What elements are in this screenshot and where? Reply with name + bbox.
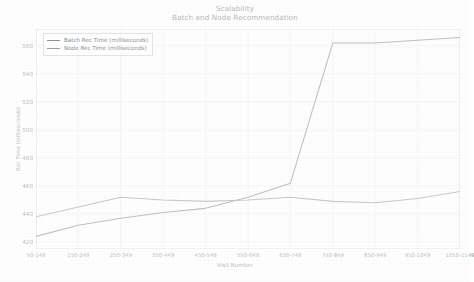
legend-item-node: Node Rec Time (milliseconds)	[47, 44, 148, 52]
y-tick-560: 560	[9, 43, 33, 49]
x-tick-250-349: 250-349	[110, 252, 132, 258]
x-tick-350-449: 350-449	[152, 252, 174, 258]
x-tick-650-749: 650-749	[279, 252, 301, 258]
series-line-1	[36, 192, 460, 217]
series-lines	[36, 29, 460, 249]
x-tick-1050-1149: 1050-1149	[446, 252, 474, 258]
y-tick-440: 440	[9, 211, 33, 217]
chart-subtitle: Batch and Node Recommendation	[0, 13, 470, 22]
y-tick-460: 460	[9, 183, 33, 189]
legend-item-batch: Batch Rec Time (milliseconds)	[47, 36, 148, 44]
y-tick-420: 420	[9, 239, 33, 245]
y-tick-540: 540	[9, 71, 33, 77]
x-tick-50-149: 50-149	[27, 252, 46, 258]
title-block: Scalability Batch and Node Recommendatio…	[0, 4, 470, 22]
y-tick-480: 480	[9, 155, 33, 161]
x-axis-title: Visit Number	[0, 262, 470, 268]
plot-area	[36, 29, 460, 249]
legend-swatch-node	[47, 48, 60, 49]
x-tick-150-249: 150-249	[67, 252, 89, 258]
x-axis-tick-labels: 50-149150-249250-349350-449450-549550-64…	[36, 249, 460, 263]
x-tick-550-649: 550-649	[237, 252, 259, 258]
x-tick-450-549: 450-549	[195, 252, 217, 258]
x-tick-950-1049: 950-1049	[405, 252, 431, 258]
chart-title: Scalability	[0, 4, 470, 13]
legend-label-node: Node Rec Time (milliseconds)	[64, 45, 147, 51]
legend-swatch-batch	[47, 40, 60, 41]
y-tick-500: 500	[9, 127, 33, 133]
y-axis-tick-labels: 420440460480500520540560	[6, 29, 33, 249]
series-line-0	[36, 37, 460, 236]
chart-legend: Batch Rec Time (milliseconds) Node Rec T…	[43, 33, 153, 56]
legend-label-batch: Batch Rec Time (milliseconds)	[64, 37, 148, 43]
x-tick-850-949: 850-949	[364, 252, 386, 258]
x-tick-750-849: 750-849	[322, 252, 344, 258]
y-tick-520: 520	[9, 99, 33, 105]
